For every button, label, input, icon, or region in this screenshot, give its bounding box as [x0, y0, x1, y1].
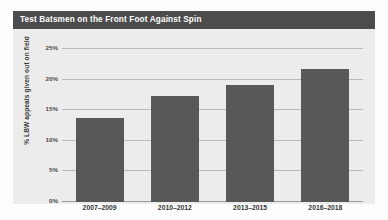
bar-2007–2009[interactable]	[76, 118, 124, 202]
x-tick-label: 2016–2018	[288, 205, 363, 212]
y-tick-label: 25%	[46, 45, 58, 51]
y-tick-label: 20%	[46, 76, 58, 82]
bar-2016–2018[interactable]	[301, 69, 349, 202]
x-tick-label: 2007–2009	[62, 205, 137, 212]
bar-2013–2015[interactable]	[226, 85, 274, 203]
screenshot-root: Test Batsmen on the Front Foot Against S…	[0, 0, 388, 220]
y-tick-label: 5%	[49, 167, 58, 173]
x-tick-label: 2010–2012	[137, 205, 212, 212]
plot-area: 0%5%10%15%20%25%	[62, 49, 363, 202]
y-axis-title: % LBW appeals given out on field	[23, 31, 30, 151]
chart-title-bar: Test Batsmen on the Front Foot Against S…	[13, 11, 375, 29]
x-tick-label: 2013–2015	[213, 205, 288, 212]
chart-panel: Test Batsmen on the Front Foot Against S…	[13, 11, 375, 204]
chart-title: Test Batsmen on the Front Foot Against S…	[20, 16, 202, 24]
plot-wrapper: % LBW appeals given out on field 0%5%10%…	[13, 29, 375, 204]
x-axis-category-labels: 2007–20092010–20122013–20152016–2018	[62, 205, 363, 219]
bar-2010–2012[interactable]	[151, 96, 199, 202]
y-tick-label: 0%	[49, 198, 58, 204]
bars-layer	[62, 49, 363, 202]
y-tick-label: 15%	[46, 106, 58, 112]
y-tick-label: 10%	[46, 137, 58, 143]
